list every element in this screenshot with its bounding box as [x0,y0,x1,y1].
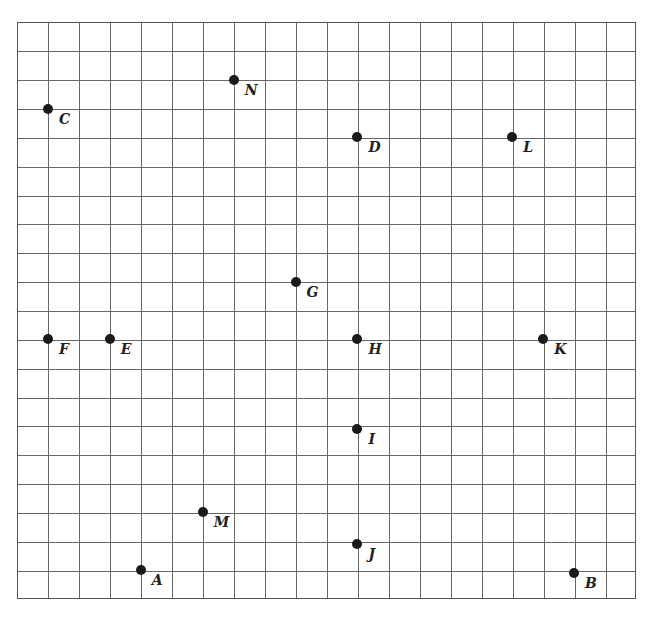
point-label: C [59,112,70,126]
grid-horizontal-line [18,282,635,283]
point-m-dot [198,507,208,517]
point-label: M [214,515,230,529]
point-label: G [307,285,319,299]
grid-horizontal-line [18,369,635,370]
point-label: H [368,342,381,356]
grid-horizontal-line [18,513,635,514]
point-label: E [121,342,132,356]
point-label: D [368,140,380,154]
point-c-dot [43,104,53,114]
point-l-dot [507,132,517,142]
point-g-dot [291,277,301,287]
point-j-dot [352,539,362,549]
point-d-dot [352,132,362,142]
point-label: B [585,576,597,590]
grid-horizontal-line [18,167,635,168]
point-h-dot [352,334,362,344]
point-k-dot [538,334,548,344]
grid-horizontal-line [18,253,635,254]
grid-horizontal-line [18,455,635,456]
grid-horizontal-line [18,542,635,543]
point-n-dot [229,75,239,85]
grid-horizontal-line [18,196,635,197]
point-b-dot [569,568,579,578]
coordinate-grid [17,22,636,599]
grid-horizontal-line [18,571,635,572]
point-label: J [368,547,375,561]
grid-horizontal-line [18,109,635,110]
point-e-dot [105,334,115,344]
grid-horizontal-line [18,51,635,52]
point-label: K [554,342,566,356]
grid-horizontal-line [18,138,635,139]
point-f-dot [43,334,53,344]
point-label: A [152,573,163,587]
point-label: I [368,432,375,446]
grid-horizontal-line [18,398,635,399]
point-label: L [523,140,533,154]
grid-horizontal-line [18,80,635,81]
grid-horizontal-line [18,311,635,312]
point-label: N [245,83,258,97]
grid-horizontal-line [18,484,635,485]
point-label: F [59,342,69,356]
grid-horizontal-line [18,224,635,225]
point-i-dot [352,424,362,434]
point-a-dot [136,565,146,575]
grid-horizontal-line [18,426,635,427]
